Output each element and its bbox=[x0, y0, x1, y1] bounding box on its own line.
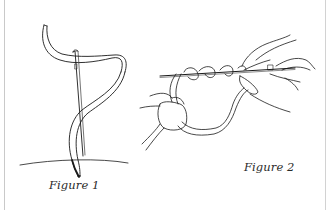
figure-2-drawing bbox=[140, 35, 315, 150]
left-hand-icon bbox=[140, 74, 187, 150]
figure-2-caption: Figure 2 bbox=[244, 160, 295, 174]
ribbon-loop-icon bbox=[178, 88, 248, 135]
figure-1-caption: Figure 1 bbox=[49, 178, 100, 192]
figure-1-drawing bbox=[20, 25, 128, 177]
illustration-frame: Figure 1 Figure 2 bbox=[0, 0, 329, 210]
ribbon-icon bbox=[43, 25, 127, 177]
needle-icon bbox=[73, 50, 85, 156]
right-hand-icon bbox=[239, 35, 315, 112]
